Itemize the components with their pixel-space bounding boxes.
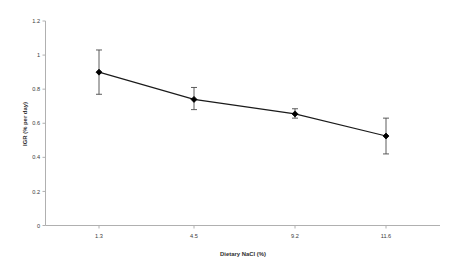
- x-tick-label: 1.3: [95, 233, 103, 239]
- y-axis-title: IGR (% per day): [22, 102, 28, 146]
- chart-figure: 1.210.80.60.40.20 1.34.59.211.6 Dietary …: [0, 0, 453, 270]
- y-tick-label: 0.4: [32, 154, 40, 160]
- y-tick-label: 0.2: [32, 189, 40, 195]
- x-tick-label: 11.6: [381, 233, 391, 239]
- x-axis-title: Dietary NaCl (%): [220, 251, 266, 257]
- y-tick-label: 0.6: [32, 120, 40, 126]
- line-chart-plot: 1.210.80.60.40.20 1.34.59.211.6 Dietary …: [0, 0, 453, 270]
- x-tick-label: 9.2: [291, 233, 299, 239]
- y-tick-label: 0.8: [32, 86, 40, 92]
- y-tick-label: 1: [37, 52, 40, 58]
- y-tick-label: 1.2: [32, 18, 40, 24]
- x-tick-label: 4.5: [190, 233, 198, 239]
- y-tick-label: 0: [37, 223, 40, 229]
